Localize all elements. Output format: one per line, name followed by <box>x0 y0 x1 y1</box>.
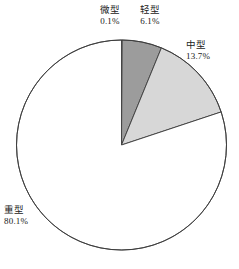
pie-label-zhongxing-percent: 13.7% <box>186 51 234 62</box>
pie-chart: 微型 0.1% 轻型 6.1% 中型 13.7% 重型 80.1% <box>0 0 239 269</box>
pie-label-qingxing: 轻型 6.1% <box>128 5 172 27</box>
pie-label-weixing-percent: 0.1% <box>88 16 132 27</box>
pie-label-zhongxing-category: 中型 <box>186 40 234 51</box>
pie-label-zhongxing: 中型 13.7% <box>186 40 234 62</box>
pie-label-weixing: 微型 0.1% <box>88 5 132 27</box>
pie-label-zhongxing-heavy-category: 重型 <box>4 205 54 216</box>
pie-label-zhongxing-heavy-percent: 80.1% <box>4 216 54 227</box>
pie-label-qingxing-category: 轻型 <box>128 5 172 16</box>
pie-label-zhongxing-heavy: 重型 80.1% <box>4 205 54 227</box>
pie-label-weixing-category: 微型 <box>88 5 132 16</box>
pie-label-qingxing-percent: 6.1% <box>128 16 172 27</box>
